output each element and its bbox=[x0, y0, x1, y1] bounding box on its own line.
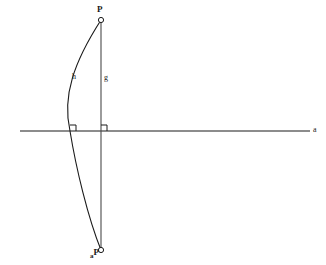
arc-curve bbox=[68, 20, 101, 250]
label-point-p-bottom: aP bbox=[90, 248, 99, 260]
label-axis-a: a bbox=[313, 126, 317, 134]
label-arc-h: h bbox=[72, 73, 76, 81]
label-point-p-top: P bbox=[97, 5, 103, 14]
geometry-figure: P aP g h a bbox=[0, 0, 326, 265]
figure-canvas bbox=[0, 0, 326, 265]
label-chord-g: g bbox=[104, 74, 108, 82]
right-angle-marker-left bbox=[70, 125, 76, 131]
point-marker-bottom bbox=[98, 247, 103, 252]
label-point-p-bottom-main: P bbox=[94, 247, 100, 257]
point-marker-top bbox=[98, 17, 103, 22]
right-angle-marker-right bbox=[101, 125, 107, 131]
